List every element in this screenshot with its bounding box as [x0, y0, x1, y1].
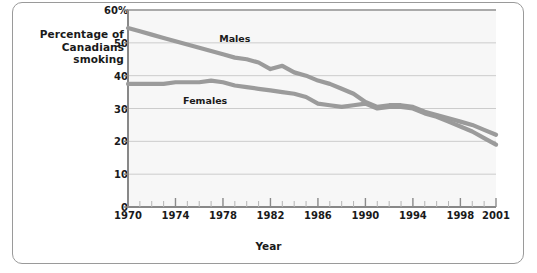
x-tick-label: 1986: [304, 210, 332, 221]
series-label-males: Males: [219, 32, 250, 43]
x-tick-label: 1970: [114, 210, 142, 221]
x-tick-label: 2001: [482, 210, 510, 221]
plot-area: [0, 0, 537, 273]
x-tick-label: 1982: [257, 210, 285, 221]
x-tick-label: 1990: [351, 210, 379, 221]
x-tick-label: 1998: [446, 210, 474, 221]
x-axis-title: Year: [0, 240, 537, 252]
chart-figure: Percentage of Canadians smoking 01020304…: [0, 0, 537, 273]
series-label-females: Females: [183, 95, 227, 106]
x-tick-label: 1978: [209, 210, 237, 221]
x-tick-label: 1974: [162, 210, 190, 221]
x-tick-label: 1994: [399, 210, 427, 221]
